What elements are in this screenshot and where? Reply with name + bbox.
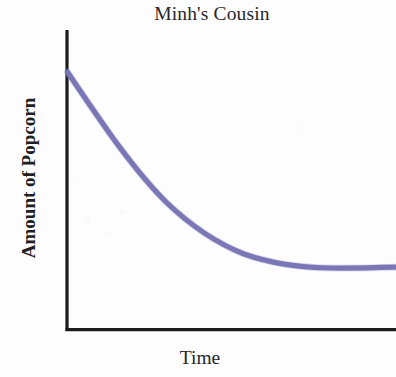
chart-figure: Minh's Cousin Amount of Popcorn Time — [0, 0, 396, 377]
plot-area — [0, 0, 396, 377]
x-axis-label: Time — [66, 345, 334, 371]
decay-curve-halo — [68, 72, 396, 268]
y-axis-label: Amount of Popcorn — [18, 63, 40, 293]
decay-curve — [68, 72, 396, 268]
